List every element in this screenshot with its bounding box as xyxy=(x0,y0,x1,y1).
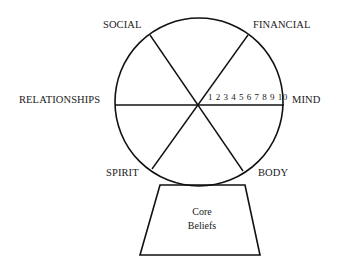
wheel-circle xyxy=(115,18,283,186)
label-mind: MIND xyxy=(292,95,320,106)
spoke-social-body xyxy=(150,35,243,171)
core-label-line1: Core xyxy=(162,205,242,219)
label-body: BODY xyxy=(258,168,288,179)
label-relationships: RELATIONSHIPS xyxy=(19,95,100,106)
life-wheel-diagram xyxy=(0,0,342,278)
label-spirit: SPIRIT xyxy=(106,168,139,179)
rating-scale: 1 2 3 4 5 6 7 8 9 10 xyxy=(208,93,288,102)
label-social: SOCIAL xyxy=(103,20,142,31)
core-label-line2: Beliefs xyxy=(162,219,242,233)
core-beliefs-label: Core Beliefs xyxy=(162,205,242,233)
label-financial: FINANCIAL xyxy=(253,20,310,31)
spoke-financial-spirit xyxy=(152,35,248,169)
